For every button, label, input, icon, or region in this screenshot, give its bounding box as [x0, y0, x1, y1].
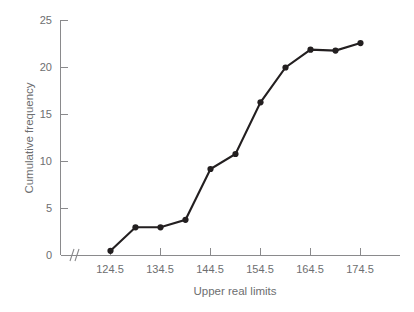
data-point — [232, 151, 238, 157]
y-tick-label-15: 15 — [40, 108, 52, 120]
data-point — [132, 224, 138, 230]
cumulative-frequency-chart: 25 20 15 10 5 0 124.5 134.5 144.5 154.5 … — [0, 0, 414, 312]
x-tick-label-134-5: 134.5 — [146, 263, 174, 275]
x-tick-label-164-5: 164.5 — [296, 263, 324, 275]
data-point — [207, 166, 213, 172]
data-point — [257, 99, 263, 105]
y-tick-label-0: 0 — [46, 249, 52, 261]
data-point — [332, 47, 338, 53]
data-point — [107, 248, 113, 254]
x-tick-label-174-5: 174.5 — [346, 263, 374, 275]
y-tick-label-5: 5 — [46, 202, 52, 214]
y-tick-label-25: 25 — [40, 14, 52, 26]
data-point — [182, 217, 188, 223]
data-point — [157, 224, 163, 230]
x-tick-label-144-5: 144.5 — [196, 263, 224, 275]
y-axis-title: Cumulative frequency — [23, 82, 35, 193]
x-axis-title: Upper real limits — [193, 285, 276, 297]
y-tick-label-20: 20 — [40, 61, 52, 73]
x-tick-label-124-5: 124.5 — [96, 263, 124, 275]
x-tick-label-154-5: 154.5 — [246, 263, 274, 275]
chart-canvas: 25 20 15 10 5 0 124.5 134.5 144.5 154.5 … — [0, 0, 414, 312]
y-tick-label-10: 10 — [40, 155, 52, 167]
data-point — [357, 40, 363, 46]
data-point — [307, 47, 313, 53]
data-point — [282, 64, 288, 70]
